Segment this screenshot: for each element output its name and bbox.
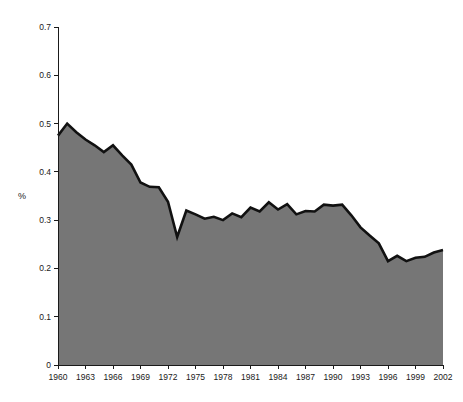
- x-tick-label: 1981: [241, 372, 260, 382]
- area-fill: [58, 124, 443, 365]
- x-tick-label: 1996: [379, 372, 398, 382]
- y-axis-title: %: [18, 191, 26, 201]
- y-tick-label: 0.3: [39, 215, 51, 225]
- y-tick-label: 0: [46, 360, 51, 370]
- y-tick-label: 0.2: [39, 263, 51, 273]
- chart-screenshot: 00.10.20.30.40.50.60.7196019631966196919…: [0, 0, 463, 402]
- x-tick-label: 1993: [351, 372, 370, 382]
- x-tick-label: 1972: [159, 372, 178, 382]
- y-tick-label: 0.5: [39, 119, 51, 129]
- x-tick-label: 1975: [186, 372, 205, 382]
- x-tick-label: 1987: [296, 372, 315, 382]
- y-tick-label: 0.1: [39, 312, 51, 322]
- area-chart-figure: 00.10.20.30.40.50.60.7196019631966196919…: [0, 0, 463, 402]
- y-tick-label: 0.6: [39, 70, 51, 80]
- x-tick-label: 1966: [104, 372, 123, 382]
- x-tick-label: 1999: [406, 372, 425, 382]
- x-tick-label: 1960: [49, 372, 68, 382]
- x-tick-label: 1963: [76, 372, 95, 382]
- x-tick-label: 1990: [324, 372, 343, 382]
- y-tick-label: 0.4: [39, 167, 51, 177]
- chart-plot-area: 00.10.20.30.40.50.60.7196019631966196919…: [0, 0, 463, 402]
- x-tick-label: 1969: [131, 372, 150, 382]
- x-tick-label: 1978: [214, 372, 233, 382]
- x-tick-label: 2002: [434, 372, 453, 382]
- x-tick-label: 1984: [269, 372, 288, 382]
- y-tick-label: 0.7: [39, 22, 51, 32]
